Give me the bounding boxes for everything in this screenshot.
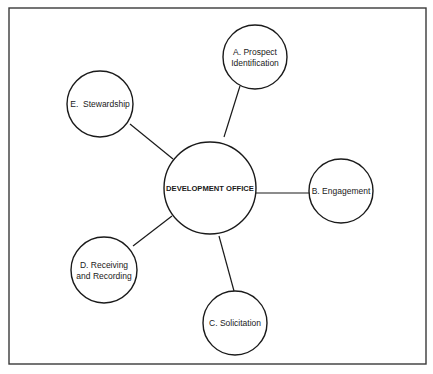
node-c-solicitation: C. Solicitation [203, 291, 267, 355]
node-b-engagement: B. Engagement [309, 159, 373, 223]
node-e-stewardship: E. Stewardship [67, 71, 133, 137]
node-e-label: E. Stewardship [70, 99, 130, 109]
diagram-canvas: DEVELOPMENT OFFICE A. Prospect Identific… [0, 0, 433, 374]
node-d-label-line2: and Recording [76, 271, 132, 281]
center-label: DEVELOPMENT OFFICE [166, 184, 254, 193]
node-d-circle [71, 237, 137, 303]
node-a-circle [223, 25, 287, 89]
edge-center-to-a [224, 86, 240, 137]
center-node-development-office: DEVELOPMENT OFFICE [164, 142, 256, 234]
node-c-label: C. Solicitation [209, 318, 261, 328]
node-a-label-line1: A. Prospect [233, 47, 278, 57]
edge-center-to-c [219, 236, 234, 291]
node-d-label-line1: D. Receiving [80, 260, 128, 270]
edge-center-to-d [133, 216, 172, 246]
edge-center-to-e [130, 124, 173, 159]
node-b-label: B. Engagement [312, 186, 371, 196]
node-a-label-line2: Identification [231, 58, 279, 68]
node-a-prospect-identification: A. Prospect Identification [223, 25, 287, 89]
node-d-receiving-and-recording: D. Receiving and Recording [71, 237, 137, 303]
